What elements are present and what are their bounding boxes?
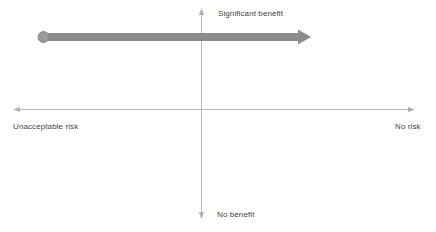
- label-no-risk: No risk: [395, 122, 421, 132]
- axis-arrowhead-right-icon: [408, 107, 415, 112]
- horizontal-axis-group: [13, 107, 415, 112]
- risk-benefit-chart: Significant benefit No risk Unacceptable…: [0, 0, 436, 232]
- trajectory-arrow-bar: [43, 33, 298, 41]
- trajectory-arrow-head-icon: [298, 30, 311, 45]
- label-unacceptable-risk: Unacceptable risk: [13, 122, 78, 132]
- axis-arrowhead-left-icon: [13, 107, 20, 112]
- benefit-trajectory-arrow: [38, 30, 311, 45]
- axis-arrowhead-down-icon: [199, 212, 204, 219]
- axis-arrowhead-up-icon: [199, 8, 204, 15]
- chart-svg: [0, 0, 436, 232]
- trajectory-start-marker-icon: [38, 32, 49, 43]
- label-significant-benefit: Significant benefit: [218, 9, 283, 19]
- label-no-benefit: No benefit: [217, 210, 254, 220]
